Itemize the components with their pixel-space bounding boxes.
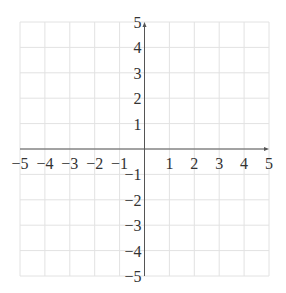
axes xyxy=(20,22,269,276)
y-tick-label: 5 xyxy=(134,14,142,31)
x-tick-labels: −5−4−3−2−112345 xyxy=(11,155,273,172)
coordinate-plane: −5−4−3−2−112345 −5−4−3−2−112345 xyxy=(0,0,286,293)
y-tick-label: 4 xyxy=(134,39,142,56)
x-tick-label: 3 xyxy=(215,155,223,172)
y-tick-label: −5 xyxy=(124,268,141,285)
x-tick-label: −2 xyxy=(86,155,103,172)
y-tick-label: 1 xyxy=(134,116,142,133)
x-tick-label: −5 xyxy=(11,155,28,172)
y-tick-label: −1 xyxy=(124,166,141,183)
x-tick-label: −4 xyxy=(36,155,53,172)
x-tick-label: 2 xyxy=(190,155,198,172)
y-tick-label: −4 xyxy=(124,243,141,260)
x-tick-label: 5 xyxy=(265,155,273,172)
x-tick-label: 1 xyxy=(165,155,173,172)
x-tick-label: 4 xyxy=(240,155,248,172)
y-tick-label: −3 xyxy=(124,217,141,234)
y-tick-label: −2 xyxy=(124,192,141,209)
y-tick-label: 3 xyxy=(134,65,142,82)
x-axis-arrow-icon xyxy=(264,147,269,151)
y-tick-label: 2 xyxy=(134,90,142,107)
x-tick-label: −3 xyxy=(61,155,78,172)
y-axis-arrow-icon xyxy=(143,22,147,27)
